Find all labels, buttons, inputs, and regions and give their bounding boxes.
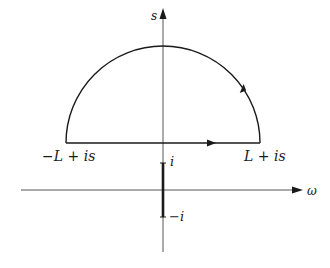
vertical-axis-label: s [151, 9, 157, 23]
horizontal-axis-label: ω [307, 184, 317, 198]
vertical-axis-arrow-icon [160, 8, 167, 19]
segment-direction-arrow-icon [207, 140, 216, 147]
branch-bottom-label: −i [169, 209, 184, 224]
contour-diagram: s ω −L + is L + is i −i [0, 0, 330, 268]
branch-top-label: i [170, 154, 174, 169]
right-endpoint-label: L + is [243, 148, 286, 164]
left-endpoint-label: −L + is [42, 148, 95, 164]
horizontal-axis-arrow-icon [292, 187, 303, 194]
